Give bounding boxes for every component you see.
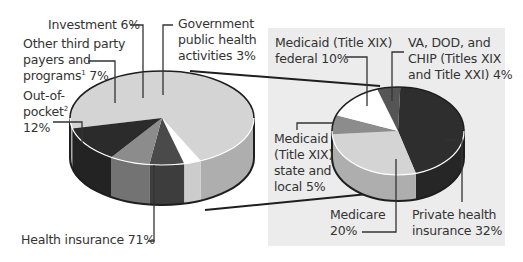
label-line: local 5% — [274, 179, 333, 195]
label-health-insurance: Health insurance 71% — [21, 232, 155, 248]
overall-pie — [70, 71, 254, 205]
health-insurance-breakdown-pie — [332, 87, 464, 201]
label-line: Private health — [412, 207, 502, 223]
label-line: activities 3% — [178, 48, 257, 64]
label-text: pocket — [23, 104, 64, 119]
label-line: Medicaid — [274, 131, 333, 147]
label-text: programs — [23, 68, 81, 83]
label-out-of-pocket: Out-of- pocket2 12% — [23, 88, 68, 136]
label-line: Government — [178, 16, 257, 32]
label-line: public health — [178, 32, 257, 48]
label-line: programs1 7% — [23, 68, 125, 84]
label-medicare: Medicare 20% — [330, 207, 385, 239]
label-line: Medicare — [330, 207, 385, 223]
label-medicaid-state-local: Medicaid (Title XIX) state and local 5% — [274, 131, 333, 195]
label-line: 20% — [330, 223, 385, 239]
label-line: Out-of- — [23, 88, 68, 104]
label-line: pocket2 — [23, 104, 68, 120]
label-other-third-party: Other third party payers and programs1 7… — [23, 36, 125, 84]
label-line: (Title XIX) — [274, 147, 333, 163]
label-line: payers and — [23, 52, 125, 68]
label-investment: Investment 6% — [48, 17, 140, 33]
label-line: CHIP (Titles XIX — [408, 51, 512, 67]
label-government-public-health: Government public health activities 3% — [178, 16, 257, 64]
footnote-marker: 2 — [64, 105, 68, 113]
label-line: VA, DOD, and — [408, 35, 512, 51]
label-line: and Title XXI) 4% — [408, 67, 512, 83]
label-line: Other third party — [23, 36, 125, 52]
label-line: state and — [274, 163, 333, 179]
label-line: insurance 32% — [412, 223, 502, 239]
label-line: federal 10% — [275, 51, 392, 67]
label-va-dod-chip: VA, DOD, and CHIP (Titles XIX and Title … — [408, 35, 512, 83]
pie-side-wall — [184, 161, 201, 204]
label-text: 7% — [86, 68, 109, 83]
label-private-health-insurance: Private health insurance 32% — [412, 207, 502, 239]
label-line: 12% — [23, 120, 68, 136]
label-line: Medicaid (Title XIX) — [275, 35, 392, 51]
label-medicaid-federal: Medicaid (Title XIX) federal 10% — [275, 35, 392, 67]
chart-stage: Investment 6% Government public health a… — [0, 0, 523, 262]
